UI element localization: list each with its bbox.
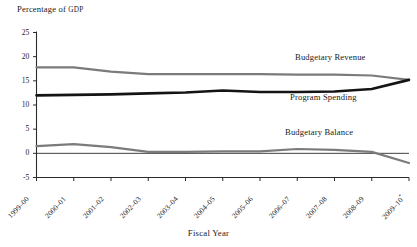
y-tick-label: 0 — [8, 148, 30, 157]
series-lines — [37, 67, 410, 163]
y-tick-label: -5 — [8, 173, 30, 182]
x-axis-title: Fiscal Year — [0, 228, 417, 238]
y-tick-label: 20 — [8, 52, 30, 61]
series-label-budgetary-balance: Budgetary Balance — [285, 127, 353, 137]
chart-figure: Percentage of GDP 2520151050-5 1999–0020… — [0, 0, 417, 247]
y-tick-label: 25 — [8, 28, 30, 37]
y-tick-label: 15 — [8, 76, 30, 85]
series-label-program-spending: Program Spending — [290, 92, 357, 102]
y-tick-label: 5 — [8, 124, 30, 133]
series-label-budgetary-revenue: Budgetary Revenue — [295, 52, 366, 62]
y-tick-label: 10 — [8, 100, 30, 109]
